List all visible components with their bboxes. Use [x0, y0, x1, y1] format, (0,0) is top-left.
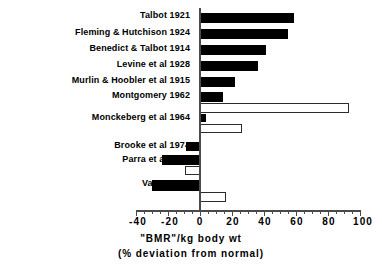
x-tick-minor-95 — [352, 211, 353, 214]
bar-varga-1959-open — [200, 192, 226, 202]
x-tick-label-80: 80 — [322, 216, 335, 227]
x-tick-minor-65 — [304, 211, 305, 214]
x-tick-minor--25 — [160, 211, 161, 214]
x-tick-minor-70 — [312, 211, 313, 214]
x-tick-minor--5 — [192, 211, 193, 214]
x-tick-minor-90 — [344, 211, 345, 214]
plot-area — [0, 0, 382, 216]
x-tick-minor-10 — [216, 211, 217, 214]
bar-fleming-hutchison-1924-filled — [200, 29, 288, 39]
bar-talbot-1921-filled — [200, 13, 294, 23]
x-tick-minor-45 — [272, 211, 273, 214]
x-tick-minor-25 — [240, 211, 241, 214]
bar-parra-et-al-1973-open — [185, 166, 200, 175]
bar-varga-1959-filled — [152, 180, 200, 191]
x-tick-minor-85 — [336, 211, 337, 214]
x-axis-title: "BMR"/kg body wt — [0, 233, 382, 244]
bar-monckeberg-et-al-1964-filled — [200, 114, 206, 122]
x-tick-minor-30 — [248, 211, 249, 214]
x-tick-label-40: 40 — [258, 216, 271, 227]
x-tick-label-60: 60 — [290, 216, 303, 227]
bar-monckeberg-et-al-1964-open — [200, 124, 242, 133]
bar-montgomery-1962-filled — [200, 92, 223, 102]
x-tick-label--20: -20 — [161, 216, 179, 227]
x-tick-minor-50 — [280, 211, 281, 214]
bar-levine-et-al-1928-filled — [200, 61, 258, 71]
x-tick-minor--15 — [176, 211, 177, 214]
x-tick-label-0: 0 — [197, 216, 204, 227]
bar-montgomery-1962-open — [200, 103, 349, 113]
x-tick-minor-35 — [256, 211, 257, 214]
x-tick-label-20: 20 — [226, 216, 239, 227]
x-tick-minor-5 — [208, 211, 209, 214]
x-tick-minor-15 — [224, 211, 225, 214]
y-axis-line — [199, 8, 201, 211]
bar-brooke-et-al-1974-filled — [186, 142, 200, 151]
x-tick-minor--35 — [144, 211, 145, 214]
x-tick-minor-55 — [288, 211, 289, 214]
x-tick-minor-75 — [320, 211, 321, 214]
chart-container: Talbot 1921 Fleming & Hutchison 1924 Ben… — [0, 0, 382, 270]
x-axis-subtitle: (% deviation from normal) — [0, 248, 382, 259]
x-tick-label-100: 100 — [353, 216, 373, 227]
x-tick-minor--30 — [152, 211, 153, 214]
x-tick-label--40: -40 — [129, 216, 147, 227]
bar-benedict-talbot-1914-filled — [200, 45, 266, 55]
bar-murlin-hoobler-et-al-1915-filled — [200, 77, 235, 87]
bar-parra-et-al-1973-filled — [162, 155, 200, 165]
x-tick-minor--10 — [184, 211, 185, 214]
